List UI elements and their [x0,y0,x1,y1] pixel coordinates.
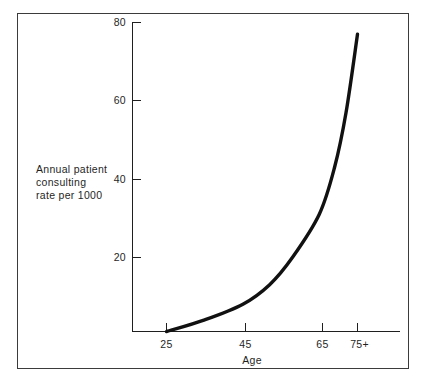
y-tick-label-80: 80 [114,16,126,28]
figure-root: 80 60 40 20 25 45 65 75+ Age Annual pati… [0,0,427,391]
y-tick-label-60: 60 [114,94,126,106]
y-axis-label-line-1: Annual patient [36,163,107,175]
y-tick-label-40: 40 [114,173,126,185]
y-axis-label-line-2: consulting [36,176,86,188]
y-axis-label-line-3: rate per 1000 [36,189,102,201]
x-axis-title: Age [242,354,262,366]
x-tick-label-45: 45 [239,338,251,350]
y-tick-label-20: 20 [114,251,126,263]
x-tick-label-25: 25 [160,338,172,350]
x-tick-label-65: 65 [316,338,328,350]
data-series-line-consulting-rate [167,34,358,331]
chart-canvas: 80 60 40 20 25 45 65 75+ Age Annual pati… [0,0,427,391]
x-tick-label-75plus: 75+ [350,338,369,350]
